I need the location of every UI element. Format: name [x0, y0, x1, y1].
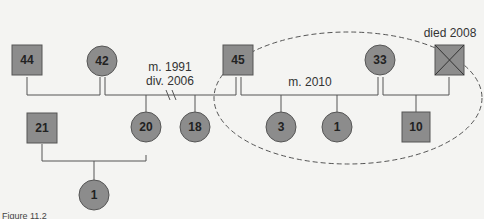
node-18: 18: [180, 112, 210, 142]
svg-text:45: 45: [231, 53, 245, 67]
node-33: 33: [365, 45, 395, 75]
node-45: 45: [223, 45, 253, 75]
genogram: 44 42 45 33 21 20 18 3 1 10 1: [0, 0, 484, 219]
relationship-lines: [27, 77, 449, 180]
divorce-2006-label: div. 2006: [146, 74, 194, 88]
svg-text:21: 21: [35, 121, 49, 135]
node-44: 44: [12, 45, 42, 75]
node-10: 10: [402, 112, 430, 142]
figure-caption: Figure 11.2: [2, 211, 47, 219]
node-deceased: [435, 45, 464, 75]
node-21: 21: [27, 113, 57, 143]
node-1-grandchild: 1: [79, 180, 109, 210]
svg-text:3: 3: [278, 120, 285, 134]
marriage-2010-label: m. 2010: [288, 75, 332, 89]
svg-text:20: 20: [139, 120, 153, 134]
node-20: 20: [131, 112, 161, 142]
svg-text:18: 18: [188, 120, 202, 134]
svg-text:1: 1: [334, 120, 341, 134]
svg-text:10: 10: [409, 120, 423, 134]
node-3: 3: [266, 112, 296, 142]
node-42: 42: [87, 46, 117, 76]
svg-text:33: 33: [373, 53, 387, 67]
svg-text:42: 42: [95, 54, 109, 68]
died-2008-label: died 2008: [424, 26, 477, 40]
svg-text:1: 1: [91, 188, 98, 202]
svg-text:44: 44: [20, 53, 34, 67]
node-1-household: 1: [322, 112, 352, 142]
marriage-1991-label: m. 1991: [148, 60, 192, 74]
